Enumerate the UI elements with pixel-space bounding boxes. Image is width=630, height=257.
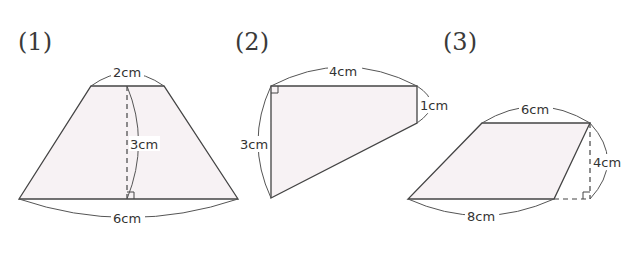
dim-right-2: 1cm <box>420 98 448 113</box>
diagram-canvas: (1) (2) (3) 2cm 3cm 6cm 4cm 1 <box>0 0 630 257</box>
dim-height-3: 4cm <box>593 155 621 170</box>
shape-1-trapezoid: 2cm 3cm 6cm <box>19 64 238 226</box>
dim-height-1: 3cm <box>130 137 158 152</box>
dim-bottom-1: 6cm <box>113 211 141 226</box>
problem-3-label: (3) <box>443 28 477 56</box>
dim-top-1: 2cm <box>113 65 141 80</box>
right-angle-mark-3 <box>583 192 590 199</box>
dim-top-2: 4cm <box>329 64 357 79</box>
trapezoid-1-outline <box>19 86 238 199</box>
problem-1-label: (1) <box>18 28 52 56</box>
problem-2-label: (2) <box>235 28 269 56</box>
dim-top-3: 6cm <box>521 102 549 117</box>
shape-2-right-trapezoid: 4cm 1cm 3cm <box>239 63 449 198</box>
dim-left-2: 3cm <box>240 137 268 152</box>
trapezoid-3-outline <box>408 123 590 199</box>
shape-3-trapezoid: 6cm 4cm 8cm <box>408 101 626 224</box>
dim-bottom-3: 8cm <box>467 209 495 224</box>
trapezoid-2-outline <box>271 86 417 198</box>
